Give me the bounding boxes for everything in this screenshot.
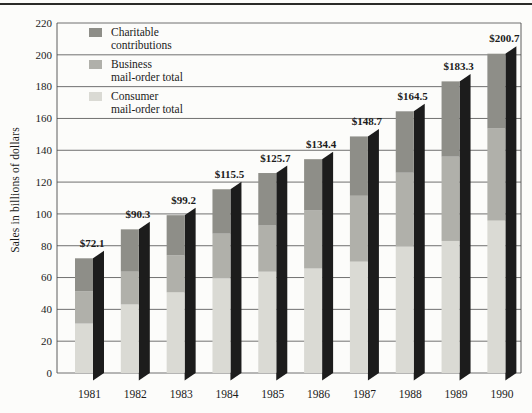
legend-label-line: Charitable	[111, 26, 159, 38]
legend-label-line: Consumer	[111, 90, 158, 102]
bar-segment-1985-s1	[258, 226, 276, 272]
legend-label-line: Business	[111, 58, 152, 70]
bar-segment-1988-s1	[396, 173, 414, 247]
bar-segment-1984-s2	[212, 189, 230, 233]
bar-segment-1989-s2	[442, 81, 460, 156]
bar-segment-1990-s0	[487, 221, 505, 373]
bar-segment-1984-s0	[212, 278, 230, 373]
bar-total-label: $125.7	[260, 152, 291, 164]
x-tick-label: 1986	[307, 388, 330, 400]
legend-swatch-business	[89, 60, 102, 69]
bar-segment-1988-s0	[396, 247, 414, 373]
bar-side-shadow	[414, 104, 425, 381]
legend-item-consumer: Consumer mail-order total	[89, 90, 183, 116]
x-tick-label: 1985	[261, 388, 284, 400]
bar-total-label: $115.5	[215, 168, 245, 180]
bar-total-label: $164.5	[398, 90, 429, 102]
sales-stacked-bar-chart: 020406080100120140160180200220$72.11981$…	[0, 0, 532, 413]
y-tick-label: 40	[41, 303, 53, 315]
y-tick-label: 60	[41, 271, 53, 283]
legend-swatch-charitable	[89, 28, 102, 37]
legend-item-business: Business mail-order total	[89, 58, 183, 84]
y-tick-label: 200	[36, 49, 53, 61]
y-tick-label: 140	[36, 144, 53, 156]
y-tick-label: 220	[36, 17, 53, 29]
x-tick-label: 1981	[78, 388, 101, 400]
legend-label-line: mail-order total	[111, 103, 183, 115]
bar-total-label: $200.7	[489, 32, 520, 44]
bar-side-shadow	[276, 166, 287, 381]
y-tick-label: 160	[36, 112, 53, 124]
bar-segment-1983-s0	[167, 292, 185, 373]
y-tick-label: 0	[47, 367, 53, 379]
page-top-rule	[0, 3, 532, 5]
chart-plot-area: 020406080100120140160180200220$72.11981$…	[0, 0, 532, 413]
bar-segment-1983-s1	[167, 255, 185, 292]
bar-segment-1988-s2	[396, 111, 414, 172]
bar-segment-1986-s2	[304, 159, 322, 210]
x-tick-label: 1989	[445, 388, 468, 400]
y-tick-label: 180	[36, 80, 53, 92]
x-tick-label: 1984	[215, 388, 238, 400]
x-tick-label: 1990	[490, 388, 513, 400]
bar-side-shadow	[460, 74, 471, 381]
bar-segment-1987-s0	[350, 262, 368, 373]
bar-segment-1982-s0	[121, 304, 139, 373]
bar-total-label: $72.1	[80, 237, 105, 249]
bar-side-shadow	[230, 182, 241, 381]
x-tick-label: 1987	[353, 388, 376, 400]
bar-total-label: $99.2	[171, 194, 196, 206]
bar-segment-1989-s1	[442, 157, 460, 241]
x-tick-label: 1988	[399, 388, 422, 400]
bar-side-shadow	[322, 152, 333, 381]
bar-segment-1981-s0	[75, 324, 93, 373]
bar-side-shadow	[505, 46, 516, 380]
bar-segment-1989-s0	[442, 241, 460, 373]
bar-segment-1981-s2	[75, 258, 93, 291]
legend-label-line: contributions	[111, 39, 172, 51]
legend-label-line: mail-order total	[111, 71, 183, 83]
bar-segment-1983-s2	[167, 215, 185, 255]
y-tick-label: 100	[36, 208, 53, 220]
bar-segment-1984-s1	[212, 234, 230, 279]
bar-segment-1982-s1	[121, 272, 139, 305]
bar-segment-1982-s2	[121, 229, 139, 271]
bar-side-shadow	[368, 129, 379, 381]
y-tick-label: 80	[41, 240, 53, 252]
bar-segment-1987-s1	[350, 196, 368, 262]
bar-segment-1986-s0	[304, 268, 322, 373]
bar-total-label: $90.3	[125, 208, 150, 220]
bar-segment-1985-s2	[258, 173, 276, 226]
bar-total-label: $148.7	[352, 115, 383, 127]
bar-total-label: $183.3	[443, 60, 474, 72]
bar-segment-1990-s1	[487, 128, 505, 220]
x-tick-label: 1983	[170, 388, 193, 400]
legend-swatch-consumer	[89, 92, 102, 101]
bar-side-shadow	[93, 251, 104, 381]
y-axis-title: Sales in billions of dollars	[9, 127, 21, 253]
bar-segment-1985-s0	[258, 272, 276, 373]
bar-segment-1986-s1	[304, 210, 322, 268]
y-tick-label: 120	[36, 176, 53, 188]
bar-side-shadow	[139, 222, 150, 381]
bar-side-shadow	[185, 208, 196, 381]
bar-total-label: $134.4	[306, 138, 337, 150]
bar-segment-1981-s1	[75, 291, 93, 323]
bar-segment-1987-s2	[350, 136, 368, 195]
y-tick-label: 20	[41, 335, 53, 347]
bar-segment-1990-s2	[487, 54, 505, 129]
legend-item-charitable: Charitable contributions	[89, 26, 172, 52]
x-tick-label: 1982	[124, 388, 147, 400]
